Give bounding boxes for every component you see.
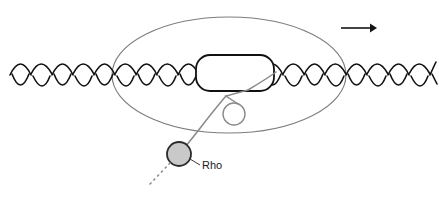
transcription-direction-arrow (341, 24, 377, 33)
rna-strand-to-rho (185, 96, 226, 147)
transcription-bubble (196, 55, 274, 91)
transcription-termination-diagram: Rho (0, 0, 439, 204)
rna-transcript-dotted-tail (150, 163, 170, 184)
rho-label: Rho (202, 159, 222, 171)
arrow-head-icon (370, 24, 377, 33)
rna-strand-to-hairpin (226, 90, 248, 104)
figure-root: Rho (0, 0, 439, 204)
rho-protein-circle (167, 142, 191, 166)
rho-leader-line (190, 159, 200, 165)
rna-hairpin-loop (223, 103, 245, 125)
